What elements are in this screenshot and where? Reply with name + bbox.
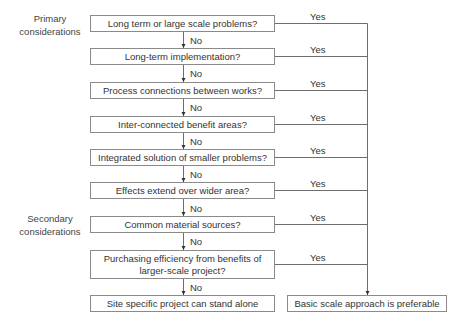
question-box-2: Long-term implementation? (90, 48, 275, 65)
question-text: Process connections between works? (103, 85, 262, 97)
primary-considerations-label: Primary considerations (5, 12, 95, 38)
question-box-3: Process connections between works? (90, 82, 275, 99)
yes-label: Yes (310, 12, 326, 22)
outcome-basic-scale: Basic scale approach is preferable (287, 295, 447, 312)
question-text: Integrated solution of smaller problems? (98, 152, 267, 164)
no-label: No (190, 204, 202, 214)
yes-label: Yes (310, 146, 326, 156)
question-text: Purchasing efficiency from benefits of l… (101, 253, 264, 277)
yes-label: Yes (310, 253, 326, 263)
question-text: Long term or large scale problems? (108, 18, 257, 30)
yes-label: Yes (310, 213, 326, 223)
no-label: No (190, 170, 202, 180)
question-box-4: Inter-connected benefit areas? (90, 116, 275, 133)
yes-label: Yes (310, 113, 326, 123)
yes-label: Yes (310, 45, 326, 55)
question-box-8: Purchasing efficiency from benefits of l… (90, 250, 275, 279)
outcome-site-specific: Site specific project can stand alone (90, 295, 275, 312)
no-label: No (190, 103, 202, 113)
outcome-text: Site specific project can stand alone (107, 298, 259, 310)
no-label: No (190, 137, 202, 147)
question-box-5: Integrated solution of smaller problems? (90, 149, 275, 166)
question-text: Common material sources? (124, 219, 240, 231)
question-text: Long-term implementation? (125, 51, 241, 63)
no-label: No (190, 237, 202, 247)
outcome-text: Basic scale approach is preferable (294, 298, 439, 310)
no-label: No (190, 36, 202, 46)
question-box-6: Effects extend over wider area? (90, 182, 275, 199)
question-text: Effects extend over wider area? (116, 185, 249, 197)
question-text: Inter-connected benefit areas? (118, 119, 247, 131)
question-box-1: Long term or large scale problems? (90, 15, 275, 32)
yes-label: Yes (310, 179, 326, 189)
no-label: No (190, 283, 202, 293)
secondary-considerations-label: Secondary considerations (5, 212, 95, 238)
yes-label: Yes (310, 79, 326, 89)
question-box-7: Common material sources? (90, 216, 275, 233)
no-label: No (190, 69, 202, 79)
